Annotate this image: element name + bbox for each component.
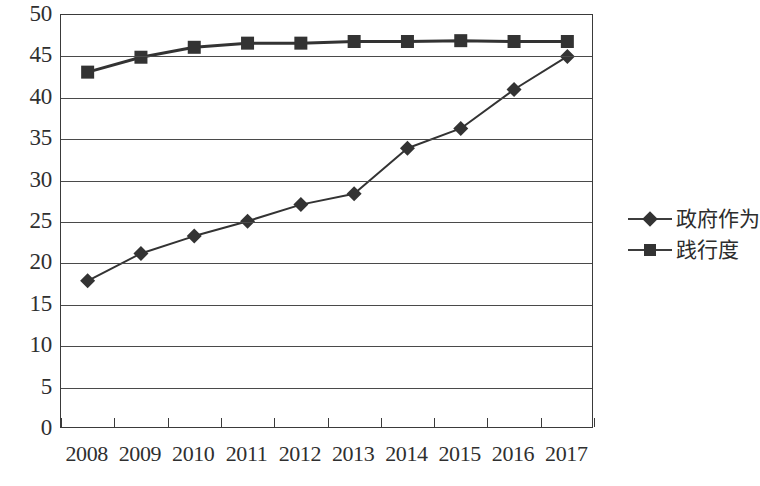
data-point-square[interactable] [241, 37, 254, 50]
y-axis-tick-label: 5 [4, 375, 52, 398]
data-point-square[interactable] [508, 35, 521, 48]
legend-item-government-action[interactable]: 政府作为 [628, 203, 755, 234]
x-axis-tick-label: 2010 [167, 437, 220, 473]
data-point-diamond[interactable] [507, 82, 522, 97]
y-axis-tick-label: 20 [4, 250, 52, 273]
x-axis-tick-labels: 2008200920102011201220132014201520162017 [60, 437, 593, 473]
x-axis-tick-label: 2012 [273, 437, 326, 473]
data-point-diamond[interactable] [133, 246, 148, 261]
x-axis-tick-mark [487, 418, 488, 427]
y-axis-tick-label: 25 [4, 209, 52, 232]
gridline [61, 56, 592, 57]
x-axis-tick-mark [114, 418, 115, 427]
x-axis-tick-mark [541, 418, 542, 427]
gridline [61, 346, 592, 347]
diamond-marker-icon [628, 208, 672, 230]
gridline [61, 181, 592, 182]
x-axis-tick-mark [434, 418, 435, 427]
x-axis-tick-mark [61, 418, 62, 427]
x-axis-tick-mark [221, 418, 222, 427]
gridline [61, 263, 592, 264]
y-axis-tick-label: 40 [4, 85, 52, 108]
data-point-square[interactable] [188, 41, 201, 54]
plot-area [60, 14, 593, 428]
legend-item-label: 践行度 [672, 238, 739, 262]
y-axis-tick-label: 30 [4, 168, 52, 191]
gridline [61, 98, 592, 99]
data-point-square[interactable] [561, 35, 574, 48]
data-point-diamond[interactable] [187, 229, 202, 244]
y-axis-tick-label: 35 [4, 126, 52, 149]
x-axis-tick-mark [328, 418, 329, 427]
x-axis-tick-label: 2014 [380, 437, 433, 473]
data-point-diamond[interactable] [453, 121, 468, 136]
x-axis-tick-label: 2011 [220, 437, 273, 473]
data-point-square[interactable] [294, 37, 307, 50]
legend-item-label: 政府作为 [672, 207, 760, 231]
series-line [88, 56, 568, 280]
x-axis-tick-label: 2015 [433, 437, 486, 473]
data-point-square[interactable] [401, 35, 414, 48]
legend-item-practice-degree[interactable]: 践行度 [628, 234, 755, 265]
data-point-square[interactable] [454, 34, 467, 47]
x-axis-tick-label: 2008 [60, 437, 113, 473]
y-axis-tick-label: 0 [4, 416, 52, 439]
y-axis-tick-label: 45 [4, 43, 52, 66]
x-axis-tick-mark [274, 418, 275, 427]
data-point-diamond[interactable] [80, 273, 95, 288]
x-axis-tick-mark [168, 418, 169, 427]
chart-legend: 政府作为 践行度 [628, 203, 755, 265]
x-axis-tick-label: 2013 [326, 437, 379, 473]
y-axis-tick-label: 50 [4, 2, 52, 25]
gridline [61, 139, 592, 140]
y-axis-tick-label: 15 [4, 292, 52, 315]
data-point-square[interactable] [81, 66, 94, 79]
y-axis-tick-labels: 05101520253035404550 [0, 0, 52, 486]
gridline [61, 305, 592, 306]
y-axis-tick-label: 10 [4, 333, 52, 356]
x-axis-tick-label: 2017 [540, 437, 593, 473]
data-point-diamond[interactable] [293, 197, 308, 212]
x-axis-tick-label: 2009 [113, 437, 166, 473]
x-axis-tick-mark [594, 418, 595, 427]
gridline [61, 388, 592, 389]
data-point-square[interactable] [348, 35, 361, 48]
x-axis-tick-mark [381, 418, 382, 427]
gridline [61, 222, 592, 223]
square-marker-icon [628, 239, 672, 261]
x-axis-tick-label: 2016 [486, 437, 539, 473]
